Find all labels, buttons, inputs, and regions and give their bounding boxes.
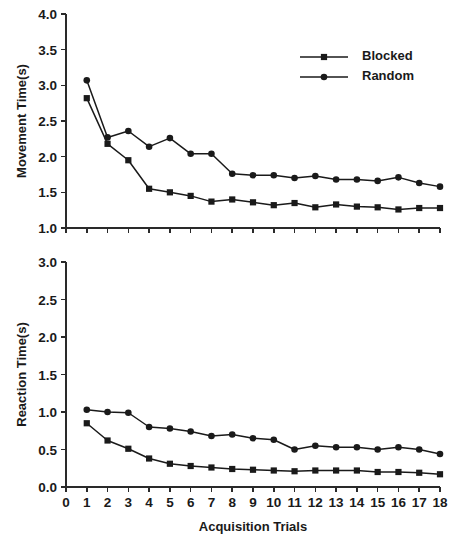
data-point-blocked: [167, 461, 173, 467]
data-point-random: [374, 446, 381, 453]
legend-item-blocked[interactable]: Blocked: [300, 48, 413, 63]
axis-frame: [66, 262, 440, 487]
data-point-random: [146, 424, 153, 431]
data-point-blocked: [104, 141, 110, 147]
legend-label: Blocked: [362, 48, 413, 63]
data-point-random: [167, 425, 174, 432]
data-point-blocked: [291, 200, 297, 206]
data-point-blocked: [250, 467, 256, 473]
data-point-random: [250, 172, 257, 179]
y-tick-label: 4.0: [38, 7, 57, 22]
y-tick-label: 2.5: [38, 114, 57, 129]
data-point-blocked: [229, 196, 235, 202]
x-tick-label: 12: [308, 495, 323, 510]
y-tick-label: 3.5: [38, 43, 57, 58]
data-point-random: [270, 436, 277, 443]
data-point-blocked: [437, 205, 443, 211]
data-point-blocked: [312, 467, 318, 473]
data-point-random: [333, 444, 340, 451]
x-tick-label: 3: [125, 495, 133, 510]
x-tick-label: 18: [432, 495, 448, 510]
data-point-random: [208, 151, 215, 158]
data-point-random: [104, 409, 111, 416]
x-tick-label: 7: [208, 495, 216, 510]
data-point-random: [83, 77, 90, 84]
data-point-blocked: [167, 189, 173, 195]
data-point-blocked: [208, 464, 214, 470]
data-point-random: [416, 180, 423, 187]
data-point-blocked: [188, 463, 194, 469]
x-tick-label: 9: [249, 495, 257, 510]
data-point-random: [104, 134, 111, 141]
data-point-blocked: [437, 471, 443, 477]
data-point-blocked: [375, 204, 381, 210]
data-point-random: [125, 128, 132, 135]
data-point-blocked: [84, 420, 90, 426]
data-point-random: [208, 433, 215, 440]
data-point-blocked: [395, 206, 401, 212]
data-point-blocked: [416, 470, 422, 476]
data-point-random: [291, 175, 298, 182]
data-point-random: [291, 446, 298, 453]
x-tick-label: 17: [412, 495, 427, 510]
y-tick-label: 1.5: [38, 185, 57, 200]
axis-frame: [66, 14, 440, 228]
y-axis-title: Reaction Time(s): [14, 322, 29, 427]
data-point-random: [416, 446, 423, 453]
data-point-random: [270, 172, 277, 179]
data-point-blocked: [146, 186, 152, 192]
data-point-random: [395, 444, 402, 451]
data-point-blocked: [291, 468, 297, 474]
data-point-random: [333, 176, 340, 183]
legend: BlockedRandom: [300, 48, 414, 83]
x-tick-label: 15: [370, 495, 386, 510]
x-tick-label: 10: [266, 495, 281, 510]
data-point-blocked: [333, 467, 339, 473]
x-tick-label: 0: [62, 495, 70, 510]
data-point-random: [187, 428, 194, 435]
y-tick-label: 1.0: [38, 221, 57, 236]
x-tick-label: 13: [329, 495, 345, 510]
data-point-blocked: [104, 437, 110, 443]
data-point-random: [250, 435, 257, 442]
data-point-random: [167, 135, 174, 142]
data-point-blocked: [354, 204, 360, 210]
x-tick-label: 14: [349, 495, 365, 510]
chart-svg: 1.01.52.02.53.03.54.0Movement Time(s)0.0…: [0, 0, 454, 542]
data-point-blocked: [333, 201, 339, 207]
data-point-random: [146, 143, 153, 150]
y-tick-label: 0.5: [38, 443, 57, 458]
legend-marker-circle: [321, 74, 328, 81]
x-tick-label: 2: [104, 495, 112, 510]
data-point-blocked: [312, 204, 318, 210]
data-point-random: [354, 176, 361, 183]
data-point-blocked: [395, 469, 401, 475]
y-tick-label: 1.5: [38, 368, 57, 383]
y-tick-label: 2.5: [38, 293, 57, 308]
data-point-blocked: [125, 446, 131, 452]
data-point-blocked: [271, 202, 277, 208]
series-line-random: [87, 410, 440, 454]
data-point-random: [187, 151, 194, 158]
data-point-blocked: [416, 205, 422, 211]
x-tick-label: 4: [145, 495, 153, 510]
data-point-random: [395, 174, 402, 181]
data-point-blocked: [354, 467, 360, 473]
series-line-blocked: [87, 98, 440, 209]
legend-item-random[interactable]: Random: [300, 68, 414, 83]
data-point-blocked: [188, 193, 194, 199]
data-point-random: [229, 170, 236, 177]
panel-bottom: 0.00.51.01.52.02.53.00123456789101112131…: [14, 255, 448, 510]
data-point-blocked: [271, 467, 277, 473]
data-point-blocked: [208, 199, 214, 205]
x-tick-label: 6: [187, 495, 195, 510]
data-point-random: [437, 451, 444, 458]
data-point-blocked: [84, 95, 90, 101]
x-tick-label: 8: [228, 495, 236, 510]
data-point-blocked: [146, 455, 152, 461]
data-point-random: [437, 183, 444, 190]
panel-top: 1.01.52.02.53.03.54.0Movement Time(s): [14, 7, 443, 236]
y-axis-title: Movement Time(s): [14, 64, 29, 178]
x-tick-label: 16: [391, 495, 407, 510]
data-point-blocked: [125, 157, 131, 163]
